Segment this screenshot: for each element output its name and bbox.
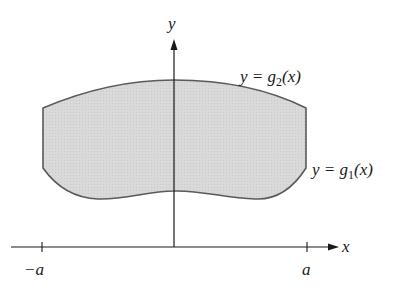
tick-label-neg-a: −a [24,261,44,278]
tick-label-a: a [302,261,311,278]
lower-curve-label-suffix: (x) [354,160,373,179]
upper-curve-label-suffix: (x) [282,67,301,86]
upper-curve-label: y = g2(x) [240,68,301,88]
diagram-svg [0,0,394,288]
x-axis-arrow-icon [328,244,339,251]
lower-curve-label: y = g1(x) [312,161,373,181]
upper-curve-label-prefix: y = g [240,67,276,86]
x-axis-label: x [342,238,350,255]
lower-curve-label-prefix: y = g [312,160,348,179]
y-axis-label: y [168,15,176,32]
y-axis-arrow-icon [171,39,178,50]
diagram-canvas: y x −a a y = g2(x) y = g1(x) [0,0,394,288]
